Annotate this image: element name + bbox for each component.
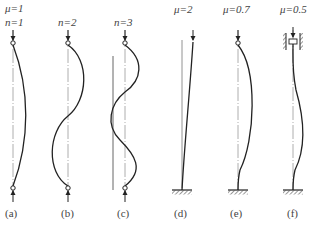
n-label-a: n=1 bbox=[5, 16, 23, 28]
mu-label-a: μ=1 bbox=[5, 2, 23, 14]
caption-c: (c) bbox=[117, 207, 129, 219]
n-label-c: n=3 bbox=[114, 16, 132, 28]
caption-a: (a) bbox=[5, 207, 17, 219]
column-e bbox=[228, 30, 252, 195]
mu-label-e: μ=0.7 bbox=[223, 3, 250, 15]
caption-d: (d) bbox=[174, 207, 187, 219]
n-label-b: n=2 bbox=[58, 16, 76, 28]
caption-b: (b) bbox=[61, 207, 74, 219]
column-b bbox=[52, 30, 84, 202]
column-a bbox=[11, 30, 26, 202]
caption-e: (e) bbox=[230, 207, 242, 219]
column-d bbox=[172, 30, 196, 195]
caption-f: (f) bbox=[287, 207, 298, 219]
mu-label-d: μ=2 bbox=[174, 3, 192, 15]
buckling-modes-diagram bbox=[0, 0, 311, 228]
column-f bbox=[283, 27, 303, 195]
column-c bbox=[111, 30, 139, 202]
mu-label-f: μ=0.5 bbox=[280, 3, 307, 15]
